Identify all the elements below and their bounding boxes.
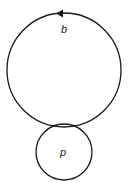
diagram-canvas: b p bbox=[0, 0, 129, 189]
label-p: p bbox=[59, 146, 66, 158]
arrowhead-icon bbox=[56, 10, 63, 18]
label-b: b bbox=[61, 23, 67, 35]
